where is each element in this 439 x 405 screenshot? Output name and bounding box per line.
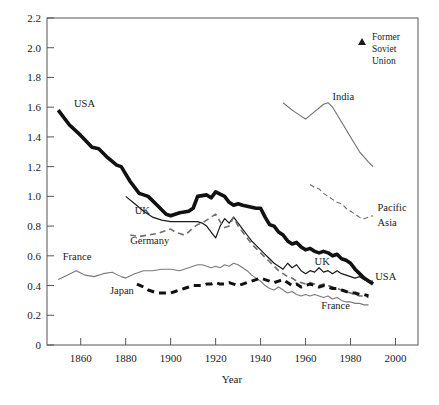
y-tick-label: 0.2 xyxy=(27,309,41,321)
y-tick-label: 1.8 xyxy=(27,71,41,83)
india-label: India xyxy=(333,91,355,102)
x-tick-label: 1960 xyxy=(295,352,318,364)
x-axis-title: Year xyxy=(222,373,243,385)
y-tick-label: 1.2 xyxy=(27,161,41,173)
y-tick-label: 0.4 xyxy=(27,280,41,292)
x-tick-label: 2000 xyxy=(385,352,408,364)
japan-label: Japan xyxy=(110,285,135,296)
usa-label-right: USA xyxy=(375,271,396,282)
pacific-asia-label-line1: Pacific xyxy=(378,202,407,213)
x-tick-label: 1900 xyxy=(160,352,183,364)
x-tick-label: 1860 xyxy=(70,352,93,364)
y-tick-label: 1.0 xyxy=(27,190,41,202)
y-tick-label: 2.2 xyxy=(27,12,41,24)
france-label-right: France xyxy=(321,300,350,311)
x-tick-label: 1920 xyxy=(205,352,228,364)
x-tick-label: 1880 xyxy=(115,352,138,364)
y-tick-label: 0 xyxy=(36,339,42,351)
y-tick-label: 1.4 xyxy=(27,131,41,143)
pacific-asia-label-line2: Asia xyxy=(378,217,398,228)
energy-intensity-line-chart: 00.20.40.60.81.01.21.41.61.82.02.2186018… xyxy=(0,0,439,405)
uk-label-left: UK xyxy=(135,205,151,216)
uk-label-right: UK xyxy=(315,256,331,267)
y-tick-label: 2.0 xyxy=(27,42,41,54)
legend-label-line-3: Union xyxy=(372,56,396,66)
legend-label-line-1: Former xyxy=(372,32,401,42)
y-tick-label: 0.6 xyxy=(27,250,41,262)
y-tick-label: 0.8 xyxy=(27,220,41,232)
germany-label: Germany xyxy=(130,235,170,246)
x-tick-label: 1980 xyxy=(340,352,363,364)
legend-label-line-2: Soviet xyxy=(372,44,397,54)
france-label-left: France xyxy=(63,251,92,262)
x-tick-label: 1940 xyxy=(250,352,273,364)
usa-label-left: USA xyxy=(74,98,95,109)
chart-figure: 00.20.40.60.81.01.21.41.61.82.02.2186018… xyxy=(0,0,439,405)
y-tick-label: 1.6 xyxy=(27,101,41,113)
